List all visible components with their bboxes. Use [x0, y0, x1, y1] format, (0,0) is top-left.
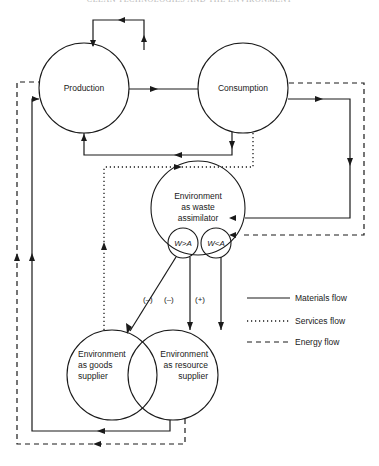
arrow-head-icon [93, 441, 101, 447]
legend-item-services: Services flow [247, 316, 346, 326]
arrow-head-icon [315, 96, 323, 102]
resource-supplier-label-line3: supplier [178, 371, 208, 381]
resource-supplier-label-line1: Environment [160, 349, 208, 359]
consumption-services-flow [104, 133, 253, 167]
sign-minus-goods: (–) [143, 295, 153, 304]
resource-to-production-flow [32, 99, 170, 431]
arrow-head-icon [229, 215, 236, 221]
arrow-head-icon [29, 253, 35, 261]
waste-assimilator-label-line1: Environment [174, 191, 222, 201]
arrow-head-icon [150, 86, 158, 92]
w-lt-a-node: W<A [201, 228, 231, 258]
production-self-loop [93, 20, 144, 50]
legend-item-materials: Materials flow [247, 293, 348, 303]
legend: Materials flow Services flow Energy flow [247, 293, 348, 347]
waste-assimilator-label-line2: as waste [181, 202, 215, 212]
goods-supplier-label-line2: as goods [78, 360, 113, 370]
sign-minus-resource: (–) [164, 295, 174, 304]
goods-supplier-node: Environment as goods supplier [67, 330, 157, 420]
arrow-head-icon [97, 428, 105, 434]
arrow-head-icon [32, 96, 39, 102]
legend-label-services: Services flow [295, 316, 346, 326]
goods-supplier-label-line3: supplier [78, 371, 108, 381]
resource-supplier-label-line2: as resource [164, 360, 209, 370]
arrow-head-icon [14, 253, 20, 261]
arrow-head-icon [101, 242, 107, 250]
w-gt-a-node: W>A [168, 228, 198, 258]
legend-label-materials: Materials flow [295, 293, 348, 303]
arrow-head-icon [218, 322, 224, 330]
circular-economy-diagram: Production Consumption Environment as wa… [0, 0, 379, 466]
consumption-energy-flow [243, 83, 364, 235]
arrow-head-icon [229, 141, 235, 149]
arrow-head-icon [187, 322, 193, 330]
arrow-head-icon [174, 152, 182, 158]
w-gt-a-label: W>A [174, 239, 192, 248]
consumption-to-waste-flow [245, 99, 350, 218]
resource-energy-flow [17, 82, 185, 444]
production-node: Production [39, 43, 129, 133]
legend-item-energy: Energy flow [247, 337, 340, 347]
arrow-head-icon [81, 134, 87, 141]
goods-supplier-label-line1: Environment [78, 349, 126, 359]
sign-plus-resource: (+) [195, 295, 205, 304]
waste-assimilator-label-line3: assimilator [178, 213, 219, 223]
consumption-node: Consumption [198, 43, 288, 133]
w-lt-a-label: W<A [207, 239, 225, 248]
arrow-head-icon [347, 158, 353, 166]
arrow-head-icon [118, 17, 125, 23]
resource-supplier-node: Environment as resource supplier [128, 330, 218, 420]
legend-label-energy: Energy flow [295, 337, 340, 347]
w-gt-a-to-goods-flow [130, 257, 176, 331]
consumption-to-production-return [84, 132, 232, 155]
production-label: Production [64, 83, 105, 93]
arrow-head-icon [141, 35, 147, 42]
consumption-label: Consumption [218, 83, 268, 93]
